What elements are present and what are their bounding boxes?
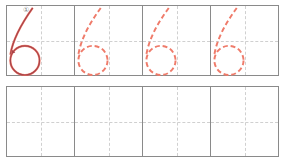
guide-horizontal <box>75 122 142 123</box>
digit-six-model-stroke <box>7 6 74 75</box>
digit-six-dashed-trace <box>143 6 210 75</box>
blank-practice-cell[interactable] <box>211 87 278 156</box>
digit-six-dashed-trace <box>211 6 278 75</box>
trace-cell[interactable] <box>75 6 143 75</box>
tracing-row: ① <box>6 5 279 76</box>
blank-practice-cell[interactable] <box>143 87 211 156</box>
practice-row <box>6 86 279 157</box>
trace-cell[interactable] <box>143 6 211 75</box>
guide-horizontal <box>7 122 74 123</box>
trace-cell[interactable] <box>211 6 278 75</box>
digit-six-dashed-trace <box>75 6 142 75</box>
blank-practice-cell[interactable] <box>7 87 75 156</box>
model-cell[interactable]: ① <box>7 6 75 75</box>
guide-horizontal <box>143 122 210 123</box>
guide-horizontal <box>211 122 278 123</box>
blank-practice-cell[interactable] <box>75 87 143 156</box>
